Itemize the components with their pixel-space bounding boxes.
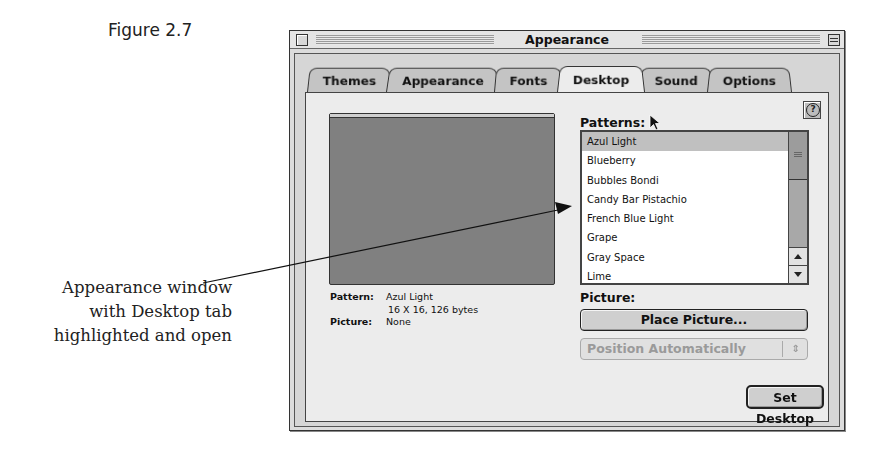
tab-options[interactable]: Options [707, 68, 792, 92]
pattern-info-value: Azul Light [386, 291, 433, 302]
place-picture-button[interactable]: Place Picture... [580, 309, 808, 331]
pattern-item-candy-bar-pistachio[interactable]: Candy Bar Pistachio [582, 190, 788, 209]
tab-themes[interactable]: Themes [307, 68, 392, 92]
pattern-item-azul-light[interactable]: Azul Light [582, 132, 788, 151]
pattern-item-gray-space[interactable]: Gray Space [582, 248, 788, 267]
scroll-up-arrow-icon[interactable] [789, 247, 807, 265]
pattern-item-bubbles-bondi[interactable]: Bubbles Bondi [582, 171, 788, 190]
patterns-scrollbar[interactable] [788, 132, 807, 283]
scroll-thumb[interactable] [789, 132, 807, 180]
caption-line-2: with Desktop tab [0, 300, 232, 324]
select-divider [782, 341, 783, 357]
patterns-list-items: Azul Light Blueberry Bubbles Bondi Candy… [582, 132, 788, 283]
pattern-item-grape[interactable]: Grape [582, 228, 788, 247]
tab-sound[interactable]: Sound [639, 68, 713, 92]
patterns-list[interactable]: Azul Light Blueberry Bubbles Bondi Candy… [580, 130, 809, 285]
scroll-down-arrow-icon[interactable] [789, 265, 807, 283]
appearance-window: Appearance Themes Appearance Fonts Deskt… [289, 30, 845, 431]
figure-caption: Appearance window with Desktop tab highl… [0, 276, 232, 348]
pattern-item-blueberry[interactable]: Blueberry [582, 151, 788, 170]
picture-info-key: Picture: [330, 316, 386, 329]
pattern-info-key: Pattern: [330, 291, 386, 304]
tab-bar: Themes Appearance Fonts Desktop Sound Op… [307, 66, 786, 93]
position-select[interactable]: Position Automatically ⇕ [580, 338, 808, 360]
pattern-item-lime[interactable]: Lime [582, 267, 788, 283]
collapse-box-icon[interactable] [828, 34, 840, 46]
tab-desktop[interactable]: Desktop [557, 66, 645, 92]
help-icon[interactable] [803, 101, 821, 119]
caption-line-1: Appearance window [0, 276, 232, 300]
title-bar[interactable]: Appearance [290, 31, 844, 49]
window-title: Appearance [290, 32, 844, 47]
picture-label: Picture: [580, 290, 635, 305]
patterns-label: Patterns: [580, 115, 645, 130]
desktop-panel: Pattern:Azul Light 16 X 16, 126 bytes Pi… [305, 92, 829, 422]
window-content: Themes Appearance Fonts Desktop Sound Op… [294, 53, 840, 427]
pattern-item-french-blue-light[interactable]: French Blue Light [582, 209, 788, 228]
tab-fonts[interactable]: Fonts [494, 68, 563, 92]
caption-line-3: highlighted and open [0, 324, 232, 348]
desktop-preview [329, 113, 555, 285]
tab-appearance[interactable]: Appearance [386, 68, 500, 92]
pattern-info: Pattern:Azul Light 16 X 16, 126 bytes Pi… [330, 291, 478, 329]
picture-info-value: None [386, 316, 411, 327]
pattern-info-detail: 16 X 16, 126 bytes [330, 304, 478, 317]
figure-label: Figure 2.7 [108, 20, 192, 40]
set-desktop-button[interactable]: Set Desktop [746, 385, 824, 409]
updown-arrows-icon: ⇕ [792, 339, 800, 359]
position-select-value: Position Automatically [587, 341, 746, 356]
